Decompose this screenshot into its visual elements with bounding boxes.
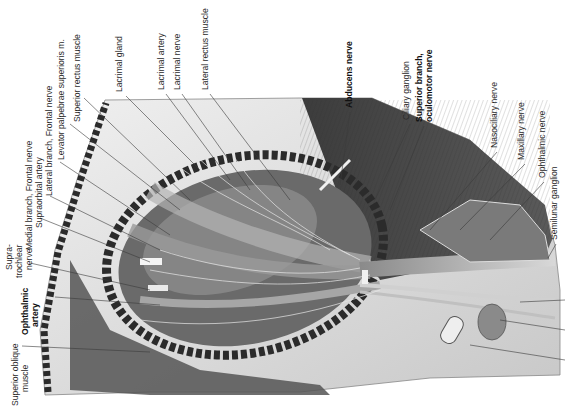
label-abducens-nerve: Abducens nerve xyxy=(344,41,354,108)
label-semilunar-ganglion: Semilunar ganglion xyxy=(549,166,559,240)
orbit-anatomy-figure: Superior oblique muscle Ophthalmic arter… xyxy=(0,0,565,411)
label-lateral-rectus-muscle: Lateral rectus muscle xyxy=(200,8,210,90)
label-lacrimal-artery: Lacrimal artery xyxy=(156,32,166,90)
label-maxillary-nerve: Maxillary nerve xyxy=(516,102,526,160)
label-lacrimal-nerve: Lacrimal nerve xyxy=(172,33,182,90)
label-supraorbital-artery: Supraorbital artery xyxy=(34,157,44,228)
label-superior-branch-oculomotor: Superior branch, oculomotor nerve xyxy=(414,49,434,122)
label-lacrimal-gland: Lacrimal gland xyxy=(114,36,124,92)
label-superior-rectus-muscle: Superior rectus muscle xyxy=(72,34,82,122)
label-lateral-branch-frontal-nerve: Lateral branch, Frontal nerve xyxy=(44,85,54,196)
label-medial-branch-frontal-nerve: Medial branch, Frontal nerve xyxy=(24,140,34,250)
label-superior-oblique-muscle: Superior oblique muscle xyxy=(10,341,30,406)
label-ciliary-ganglion: Ciliary ganglion xyxy=(401,61,411,120)
label-ophthalmic-nerve: Ophthalmic nerve xyxy=(537,110,547,178)
label-nasociliary-nerve: Nasociliary nerve xyxy=(489,82,499,148)
label-ophthalmic-artery: Ophthalmic artery xyxy=(20,285,40,335)
label-levator-palpebrae: Levator palpebrae superioris m. xyxy=(56,39,66,160)
